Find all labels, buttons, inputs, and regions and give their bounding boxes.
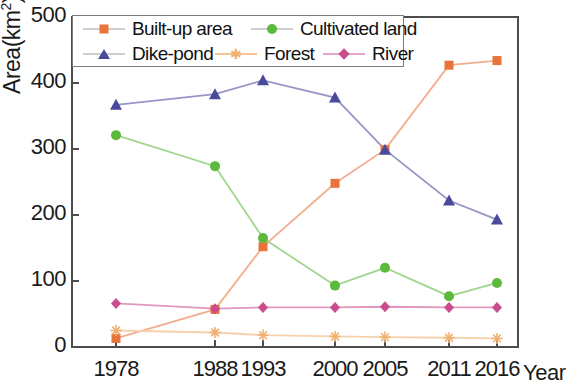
data-point-marker	[330, 331, 341, 342]
legend-line-forest: ✱	[215, 53, 257, 55]
legend-line-built-up-area	[83, 28, 125, 30]
legend-marker-star-icon: ✱	[230, 47, 242, 61]
series-line	[116, 303, 497, 308]
line-chart: Area(km2) Year 0100200300400500 19781988…	[0, 0, 580, 386]
data-point-marker	[380, 301, 390, 312]
data-point-marker	[111, 130, 121, 140]
data-point-marker	[380, 263, 390, 273]
series-line	[116, 331, 497, 339]
series-line	[116, 80, 497, 219]
data-point-marker	[258, 233, 268, 243]
data-point-marker	[210, 161, 220, 171]
data-point-marker	[257, 74, 269, 85]
legend-marker-square-icon	[100, 25, 109, 34]
data-point-marker	[258, 330, 269, 341]
legend-item-forest[interactable]: ✱ Forest	[215, 41, 314, 67]
data-point-marker	[330, 281, 340, 291]
legend-item-river[interactable]: River	[323, 41, 413, 67]
data-point-marker	[331, 179, 340, 188]
data-point-marker	[444, 332, 455, 343]
legend-item-cultivated-land[interactable]: Cultivated land	[251, 16, 417, 42]
data-point-marker	[444, 302, 454, 313]
data-point-marker	[111, 298, 121, 309]
data-point-marker	[492, 278, 502, 288]
legend-label-forest: Forest	[264, 43, 314, 65]
data-point-marker	[492, 333, 503, 344]
data-point-marker	[444, 291, 454, 301]
data-point-marker	[445, 61, 454, 70]
legend-item-dike-pond[interactable]: Dike-pond	[83, 41, 213, 67]
legend-line-cultivated-land	[251, 28, 293, 30]
legend-marker-circle-icon	[267, 24, 277, 34]
legend-line-river	[323, 53, 365, 55]
data-point-marker	[492, 302, 502, 313]
series-line	[116, 135, 497, 296]
data-point-marker	[258, 302, 268, 313]
data-point-marker	[493, 56, 502, 65]
legend-item-built-up-area[interactable]: Built-up area	[83, 16, 232, 42]
legend-marker-triangle-icon	[98, 49, 110, 59]
legend-marker-diamond-icon	[338, 48, 349, 59]
legend-label-dike-pond: Dike-pond	[132, 43, 213, 65]
legend: Built-up area Cultivated land Dike-pond …	[72, 15, 404, 67]
data-point-marker	[380, 332, 391, 343]
legend-line-dike-pond	[83, 53, 125, 55]
data-point-marker	[491, 214, 503, 225]
data-point-marker	[330, 302, 340, 313]
legend-label-river: River	[372, 43, 413, 65]
data-point-marker	[210, 327, 221, 338]
legend-label-built-up-area: Built-up area	[132, 18, 232, 40]
series-line	[116, 61, 497, 339]
data-point-marker	[259, 242, 268, 251]
data-point-marker	[111, 325, 122, 336]
legend-label-cultivated-land: Cultivated land	[300, 18, 417, 40]
